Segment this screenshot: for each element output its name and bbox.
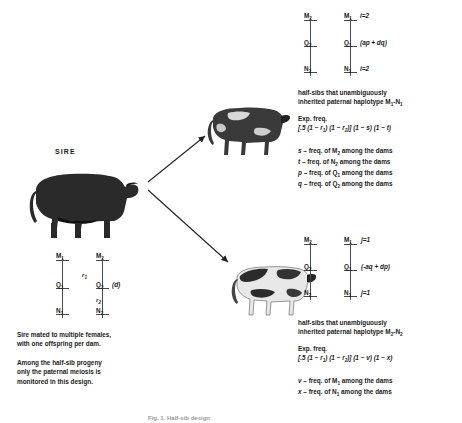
distance-r1: r1 [82,271,87,278]
bottom-exp-freq-formula: [.5 (1 − r1) (1 − r2)] (1 − v) (1 − x) [298,353,462,363]
locus-m1: M1 [56,252,64,259]
bottom-progeny-description: half-sibs that unambiguously inherited p… [298,318,462,338]
definition-s: s – freq. of M2 among the dams [298,146,462,157]
bottom-definitions: v – freq. of M1 among the dams x – freq.… [298,376,462,398]
bottom-locus-q2: Q2 [304,263,312,270]
locus-q1: Q1 [56,281,64,288]
bottom-annotation-effect: (-aq + dp) [361,263,390,270]
sire-note-line-2: with one offspring per dam. [17,339,197,348]
top-locus-q1: Q1 [344,39,352,46]
sire-note-line-1: Sire mated to multiple females, [17,330,197,339]
sire-notes: Sire mated to multiple females, with one… [17,330,197,386]
bottom-locus-n1: N1 [344,289,351,296]
sire-haplotype-map: M1 Q1 N1 M2 Q2 N2 (d) r1 r2 [34,252,154,322]
top-annotation-i-lower: i=2 [360,65,369,72]
sire-note-spacer [17,349,197,358]
sire-note-line-5: only the paternal meiosis is [17,367,197,376]
bottom-desc-line-1: half-sibs that unambiguously [298,318,462,327]
top-definitions: s – freq. of M2 among the dams t – freq.… [298,146,462,190]
locus-n1: N1 [56,307,63,314]
bottom-annotation-j-lower: j=1 [361,289,370,296]
definition-p: p – freq. of Q1 among the dams [298,168,462,179]
definition-q: q – freq. of Q2 among the dams [298,179,462,190]
top-locus-q2: Q2 [304,39,312,46]
dark-holstein-cow-image [204,100,290,158]
bottom-desc-line-2: inherited paternal haplotype M2-N2 [298,327,462,337]
definition-x: x – freq. of N1 among the dams [298,387,462,398]
distance-r2: r2 [96,296,101,303]
bottom-exp-freq-label: Exp. freq. [298,344,462,353]
bottom-exp-freq-block: Exp. freq. [.5 (1 − r1) (1 − r2)] (1 − v… [298,344,462,364]
top-locus-m2: M2 [304,12,312,19]
top-exp-freq-formula: [.5 (1 − r1) (1 − r2)] (1 − s) (1 − t) [298,123,462,133]
definition-t: t – freq. of N2 among the dams [298,157,462,168]
bottom-progeny-haplotype-map: M2 Q2 N2 M1 Q1 N1 j=1 (-aq + dp) j=1 [298,236,448,304]
arrow-to-bottom-progeny [148,190,228,262]
bottom-locus-q1: Q1 [344,263,352,270]
top-annotation-i-upper: i=2 [360,12,369,19]
bottom-annotation-j-upper: j=1 [361,236,370,243]
figure-caption: Fig. 1. Half-sib design [148,415,210,421]
top-locus-n1: N1 [344,65,351,72]
top-progeny-haplotype-map: M2 Q2 N2 M1 Q1 N1 i=2 (ap + dq) i=2 [298,12,448,80]
top-exp-freq-label: Exp. freq. [298,114,462,123]
sire-label: SIRE [55,148,76,155]
arrow-to-top-progeny [148,136,205,182]
locus-m2: M2 [96,252,104,259]
sire-note-line-6: monitored in this design. [17,377,197,386]
sire-note-line-4: Among the half-sib progeny [17,358,197,367]
bottom-locus-m1: M1 [344,236,352,243]
top-desc-line-1: half-sibs that unambiguously [298,88,462,97]
black-bull-image [22,163,147,245]
top-exp-freq-block: Exp. freq. [.5 (1 − r1) (1 − r2)] (1 − s… [298,114,462,134]
top-desc-line-2: inherited paternal haplotype M1-N1 [298,97,462,107]
top-annotation-effect: (ap + dq) [360,39,387,46]
locus-n2: N2 [96,307,103,314]
figure-canvas: SIRE M1 Q1 N1 [0,0,462,423]
bottom-locus-m2: M2 [304,236,312,243]
top-progeny-description: half-sibs that unambiguously inherited p… [298,88,462,108]
top-locus-n2: N2 [304,65,311,72]
locus-q2: Q2 [96,281,104,288]
bottom-locus-n2: N2 [304,289,311,296]
q2-dominance-annotation: (d) [112,281,120,288]
top-locus-m1: M1 [344,12,352,19]
definition-v: v – freq. of M1 among the dams [298,376,462,387]
